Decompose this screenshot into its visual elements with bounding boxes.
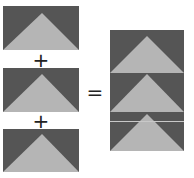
triangle-block-icon [3,6,79,50]
flying-geese-unit-1 [3,6,79,50]
triangle-block-icon [3,68,79,112]
plus-sign-1: + [31,50,51,70]
flying-geese-unit-3 [3,129,79,172]
flying-geese-unit-2 [3,68,79,112]
equals-sign: = [85,82,105,102]
plus-sign-2: + [31,111,51,131]
stacked-flying-geese-column [110,30,184,151]
triangle-block-icon [3,129,79,172]
stacked-triangles-icon [110,30,184,151]
